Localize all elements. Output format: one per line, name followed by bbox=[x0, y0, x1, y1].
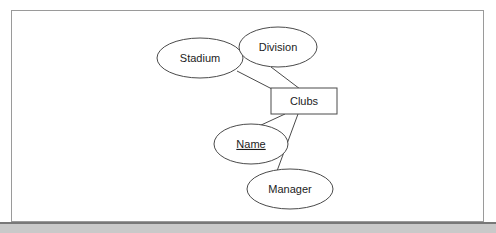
connector-division-clubs bbox=[271, 67, 300, 89]
manager-label: Manager bbox=[268, 183, 312, 195]
node-clubs[interactable]: Clubs bbox=[271, 88, 337, 114]
screenshot-root: Stadium Division Clubs Name Manager bbox=[0, 0, 496, 233]
er-diagram-canvas: Stadium Division Clubs Name Manager bbox=[0, 0, 496, 233]
node-stadium[interactable]: Stadium bbox=[157, 38, 243, 78]
stadium-label: Stadium bbox=[180, 52, 220, 64]
node-division[interactable]: Division bbox=[239, 27, 317, 67]
connector-stadium-clubs bbox=[237, 71, 272, 89]
clubs-label: Clubs bbox=[290, 95, 319, 107]
node-name[interactable]: Name bbox=[214, 124, 288, 164]
page-bottom-band bbox=[0, 222, 496, 233]
connector-clubs-name bbox=[259, 114, 285, 126]
name-label: Name bbox=[236, 138, 265, 150]
division-label: Division bbox=[259, 41, 298, 53]
node-manager[interactable]: Manager bbox=[247, 169, 333, 209]
